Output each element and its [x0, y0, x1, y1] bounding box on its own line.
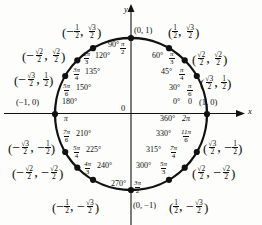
coord-y-den-30: 2 — [221, 82, 227, 91]
unit-circle-figure: y x 0 (0, 1) 90° π2 (−1, 0) 180° π 0° 0 … — [0, 0, 262, 225]
coord-label-60: (12, √32) — [168, 24, 199, 40]
coord-x-sign-150: − — [18, 73, 26, 87]
coord-y-den-150: 2 — [43, 79, 49, 88]
degree-label-270: 270° — [111, 180, 126, 188]
coord-x-den-240: 2 — [64, 206, 70, 215]
coord-y-sign-315: − — [213, 166, 221, 180]
coord-y-den-60: 2 — [187, 31, 193, 40]
point-315deg — [182, 165, 188, 171]
degree-label-315: 315° — [146, 146, 161, 154]
radian-den-150: 6 — [64, 90, 70, 98]
degree-label-210: 210° — [76, 130, 91, 138]
radian-num-210: 7π — [62, 129, 71, 136]
degree-label-30: 30° — [169, 84, 180, 92]
coord-label-150: (−√32, 12) — [14, 72, 53, 88]
coord-y-den-135: 2 — [53, 55, 59, 64]
coord-x-sign-240: − — [56, 200, 64, 214]
degree-label-180: 180° — [62, 98, 77, 106]
coord-x-sign-120: − — [66, 25, 74, 39]
coord-x-num-45: √2 — [196, 51, 206, 59]
coord-x-den-210: 2 — [22, 147, 28, 156]
radian-label-90: π2 — [120, 40, 126, 57]
coord-y-sign-210: − — [37, 141, 45, 155]
degree-label-120: 120° — [95, 52, 110, 60]
coord-label-315: (√22, −√22) — [192, 165, 235, 181]
radian-num-240: 4π — [83, 161, 92, 168]
coord-x-den-30: 2 — [206, 82, 212, 91]
coord-y-num-45: √2 — [213, 51, 223, 59]
radian-den-45: 4 — [179, 74, 185, 82]
coord-x-num-135: √2 — [34, 48, 44, 56]
coord-y-den-45: 2 — [215, 58, 221, 67]
radian-label-45: π4 — [179, 66, 185, 83]
degree-label-60: 60° — [152, 52, 163, 60]
point-180deg — [52, 111, 58, 117]
coord-x-den-135: 2 — [36, 55, 42, 64]
coord-x-sign-225: − — [16, 166, 24, 180]
x-axis-arrow — [236, 110, 245, 117]
coord-y-den-225: 2 — [51, 172, 57, 181]
coord-label-0-1: (0, 1) — [134, 26, 152, 35]
radian-num-150: 5π — [62, 83, 71, 90]
radian-num-225: 5π — [72, 145, 81, 152]
coord-x-den-60: 2 — [172, 31, 178, 40]
point-210deg — [62, 149, 68, 155]
coord-y-num-240: √3 — [85, 199, 95, 207]
coord-y-num-30: 1 — [221, 75, 227, 83]
radian-den-225: 4 — [74, 152, 80, 160]
coord-label-300: (12, −√32) — [169, 199, 208, 215]
coord-label-45: (√22, √22) — [192, 51, 227, 67]
coord-x-den-300: 2 — [173, 206, 179, 215]
radian-label-135: 3π4 — [72, 66, 81, 83]
coord-y-den-330: 2 — [232, 147, 238, 156]
y-axis-label: y — [124, 5, 128, 14]
coord-x-den-330: 2 — [209, 147, 215, 156]
coord-x-den-120: 2 — [74, 31, 80, 40]
coord-y-den-300: 2 — [196, 206, 202, 215]
origin-label: 0 — [121, 104, 125, 113]
coord-y-num-210: 1 — [45, 140, 51, 148]
radian-num-300: 5π — [159, 161, 168, 168]
radian-den-30: 6 — [187, 90, 193, 98]
radian-num-330: 11π — [180, 129, 192, 136]
coord-x-den-45: 2 — [198, 58, 204, 67]
radian-label-60: π3 — [169, 50, 175, 67]
radian-label-2pi: 2π — [182, 115, 190, 123]
radian-label-240: 4π3 — [83, 160, 92, 177]
coord-y-den-120: 2 — [89, 31, 95, 40]
radian-label-120: 2π3 — [82, 50, 91, 67]
coord-x-sign-210: − — [12, 141, 20, 155]
coord-x-num-120: 1 — [74, 24, 80, 32]
degree-label-45: 45° — [161, 68, 172, 76]
degree-label-135: 135° — [85, 68, 100, 76]
point-45deg — [182, 57, 188, 63]
point-90deg — [128, 35, 134, 41]
radian-num-120: 2π — [82, 51, 91, 58]
degree-label-300: 300° — [136, 162, 151, 170]
y-axis-arrow — [128, 4, 135, 12]
coord-label-1-0: (1, 0) — [199, 98, 217, 107]
coord-label-30: (√32, 12) — [200, 75, 231, 91]
point-300deg — [166, 177, 172, 183]
coord-y-sign-300: − — [186, 200, 194, 214]
point-30deg — [194, 73, 200, 79]
coord-label-135: (−√22, √22) — [22, 48, 65, 64]
radian-den-120: 3 — [84, 58, 90, 66]
radian-label-30: π6 — [187, 82, 193, 99]
radian-label-225: 5π4 — [72, 144, 81, 161]
point-240deg — [90, 177, 96, 183]
coord-y-num-150: 1 — [43, 72, 49, 80]
coord-x-num-225: √2 — [24, 165, 34, 173]
coord-x-num-60: 1 — [172, 24, 178, 32]
coord-label-330: (√32, −12) — [203, 140, 242, 156]
coord-x-num-150: √3 — [26, 72, 36, 80]
radian-den-240: 3 — [85, 168, 91, 176]
coord-y-num-135: √2 — [51, 48, 61, 56]
coord-x-num-315: √2 — [196, 165, 206, 173]
coord-x-sign-135: − — [26, 49, 34, 63]
degree-label-240: 240° — [97, 162, 112, 170]
coord-x-num-210: √3 — [20, 140, 30, 148]
radian-den-210: 6 — [64, 136, 70, 144]
coord-y-num-330: 1 — [232, 140, 238, 148]
point-225deg — [74, 165, 80, 171]
